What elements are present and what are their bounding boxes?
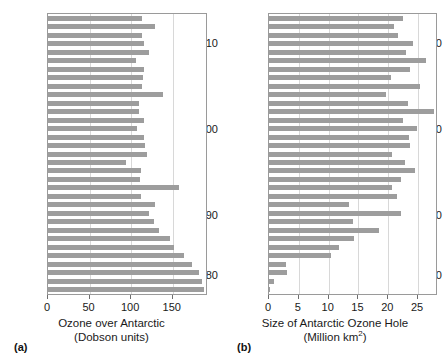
bar-2000 <box>269 109 434 114</box>
tickmark-100 <box>130 295 131 299</box>
bar-1979 <box>48 287 204 292</box>
bar-1999 <box>269 118 403 123</box>
bar-2004 <box>48 75 143 80</box>
panel-b-axis-title: Size of Antarctic Ozone Hole (Million km… <box>223 316 447 344</box>
bar-2001 <box>48 101 139 106</box>
bar-2007 <box>269 50 406 55</box>
panel-b-x-tick-labels: 0510152025 <box>268 301 437 315</box>
bar-1984 <box>48 245 174 250</box>
bar-2001 <box>269 101 408 106</box>
bar-2009 <box>48 33 142 38</box>
bar-2005 <box>48 67 144 72</box>
bar-1998 <box>269 126 417 131</box>
bar-1998 <box>48 126 137 131</box>
bar-1989 <box>48 202 155 207</box>
bar-1982 <box>48 262 192 267</box>
tickmark-10 <box>328 295 329 299</box>
bar-2006 <box>48 58 136 63</box>
bar-2005 <box>269 67 410 72</box>
bar-1997 <box>48 135 144 140</box>
bar-1999 <box>48 118 144 123</box>
bar-1987 <box>48 219 154 224</box>
bar-1985 <box>48 236 170 241</box>
bar-2002 <box>48 92 163 97</box>
tickmark-5 <box>298 295 299 299</box>
bar-2010 <box>269 24 394 29</box>
bar-1982 <box>269 262 286 267</box>
bar-2006 <box>269 58 426 63</box>
tickmark-150 <box>172 295 173 299</box>
bar-1995 <box>269 152 392 157</box>
bar-1987 <box>269 219 353 224</box>
bar-1990 <box>269 194 397 199</box>
panel-a-plot-area <box>47 13 207 295</box>
x-tick-label-100: 100 <box>121 301 139 314</box>
panel-a-axis-title-line2: (Dobson units) <box>0 330 223 344</box>
bar-2009 <box>269 33 398 38</box>
bar-1989 <box>269 202 349 207</box>
tickmark-15 <box>357 295 358 299</box>
bar-1991 <box>48 185 179 190</box>
x-tick-label-25: 25 <box>411 301 423 314</box>
bar-2011 <box>48 16 142 21</box>
panel-b-plot-area <box>268 13 437 295</box>
bar-1986 <box>48 228 159 233</box>
bar-2003 <box>269 84 420 89</box>
panel-a-axis-title-line1: Ozone over Antarctic <box>58 317 165 329</box>
bar-2008 <box>269 41 413 46</box>
bar-1994 <box>48 160 126 165</box>
panel-b-axis-title-line2: (Million km2) <box>223 330 447 344</box>
bar-1985 <box>269 236 354 241</box>
x-tick-label-5: 5 <box>295 301 301 314</box>
panel-b-axis-title-line1: Size of Antarctic Ozone Hole <box>262 317 408 329</box>
bar-2004 <box>269 75 391 80</box>
bar-1984 <box>269 245 339 250</box>
bar-2002 <box>269 92 386 97</box>
bar-1993 <box>269 168 415 173</box>
x-tick-label-10: 10 <box>322 301 334 314</box>
bar-1979 <box>269 287 270 292</box>
x-tick-label-20: 20 <box>381 301 393 314</box>
bar-1980 <box>48 279 202 284</box>
x-tick-label-0: 0 <box>265 301 271 314</box>
bar-1981 <box>48 270 199 275</box>
bar-1983 <box>269 253 331 258</box>
bar-1992 <box>269 177 401 182</box>
bar-1980 <box>269 279 274 284</box>
bar-2010 <box>48 24 155 29</box>
ozone-figure: 2010 2000 1990 1980 050100150 Ozone over… <box>0 0 447 357</box>
bar-1991 <box>269 185 392 190</box>
bar-2003 <box>48 84 142 89</box>
bar-1981 <box>269 270 287 275</box>
x-tick-label-15: 15 <box>351 301 363 314</box>
bar-2000 <box>48 109 139 114</box>
panel-a-bar-series <box>48 14 206 294</box>
tickmark-0 <box>47 295 48 299</box>
tickmark-25 <box>417 295 418 299</box>
bar-1994 <box>269 160 405 165</box>
bar-1986 <box>269 228 379 233</box>
panel-b-bar-series <box>269 14 436 294</box>
tickmark-20 <box>387 295 388 299</box>
bar-2008 <box>48 41 144 46</box>
bar-2007 <box>48 50 149 55</box>
panel-b-ozone-hole-size: 2010 2000 1990 1980 0510152025 Size of A… <box>223 0 447 357</box>
bar-1988 <box>48 211 149 216</box>
panel-a-caption: (a) <box>14 341 27 354</box>
panel-a-axis-title: Ozone over Antarctic (Dobson units) <box>0 316 223 344</box>
bar-2011 <box>269 16 403 21</box>
bar-1983 <box>48 253 184 258</box>
tickmark-50 <box>89 295 90 299</box>
x-tick-label-50: 50 <box>82 301 94 314</box>
panel-b-axis-title-line2-pre: (Million km <box>303 331 358 343</box>
panel-b-axis-title-line2-post: ) <box>363 331 367 343</box>
panel-a-x-tick-labels: 050100150 <box>47 301 207 315</box>
bar-1993 <box>48 168 141 173</box>
bar-1995 <box>48 152 147 157</box>
tickmark-0 <box>268 295 269 299</box>
x-tick-label-150: 150 <box>163 301 181 314</box>
x-tick-label-0: 0 <box>44 301 50 314</box>
panel-a-ozone-concentration: 2010 2000 1990 1980 050100150 Ozone over… <box>0 0 223 357</box>
bar-1996 <box>48 143 145 148</box>
bar-1990 <box>48 194 141 199</box>
